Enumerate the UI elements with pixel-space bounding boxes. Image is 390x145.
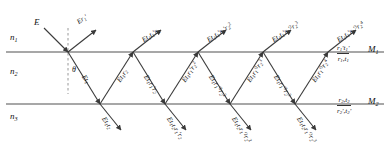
medium-label-n3: n3: [10, 112, 18, 122]
m1-coeff-top: r1't1': [337, 44, 349, 52]
interface-m1-coefficients: r1't1' r1,t1: [337, 44, 349, 63]
m1-fraction-bar: [337, 53, 349, 54]
incident-ray-label: E: [34, 18, 40, 27]
m1-coeff-bottom: r1,t1: [338, 55, 349, 63]
angle-theta-label: θ: [72, 66, 76, 74]
interface-name-m2: M2: [368, 97, 379, 107]
medium-label-n2: n2: [10, 67, 18, 77]
m2-coeff-top: r2,t2: [339, 96, 350, 104]
reflected-ray-0: [68, 30, 96, 52]
medium-label-n1: n1: [10, 33, 18, 43]
interface-name-m1: M1: [368, 45, 379, 55]
incident-ray: [44, 28, 68, 52]
ray-diagram-figure: n1 n2 n3 E θ r1't1' r1,t1 M1 r2,t2 r2',t…: [0, 0, 390, 145]
m2-coeff-bottom: r2',t2': [337, 107, 351, 115]
m2-fraction-bar: [337, 105, 351, 106]
interface-m2-coefficients: r2,t2 r2',t2': [337, 96, 351, 115]
